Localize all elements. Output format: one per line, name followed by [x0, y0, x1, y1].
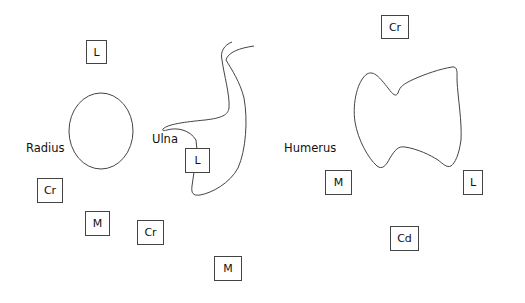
- humerus-label: Humerus: [284, 141, 336, 155]
- radius-label: Radius: [26, 141, 65, 155]
- bone-outlines: [0, 0, 525, 303]
- radius-medial-box: M: [85, 211, 110, 236]
- ulna-cranial-box: Cr: [137, 220, 164, 245]
- humerus-medial-box: M: [325, 170, 352, 195]
- ulna-label: Ulna: [152, 132, 178, 146]
- ulna-lateral-box: L: [185, 148, 210, 173]
- ulna-medial-box: M: [214, 256, 242, 281]
- humerus-cranial-box: Cr: [381, 15, 409, 39]
- humerus-caudal-box: Cd: [390, 226, 419, 251]
- radius-cranial-box: Cr: [37, 178, 63, 203]
- radius-lateral-box: L: [86, 40, 107, 64]
- humerus-outline: [354, 67, 461, 168]
- radius-outline: [69, 93, 133, 169]
- humerus-lateral-box: L: [463, 170, 483, 195]
- bone-cross-section-diagram: Radius Ulna Humerus L L Cr M Cr M Cr M L…: [0, 0, 525, 303]
